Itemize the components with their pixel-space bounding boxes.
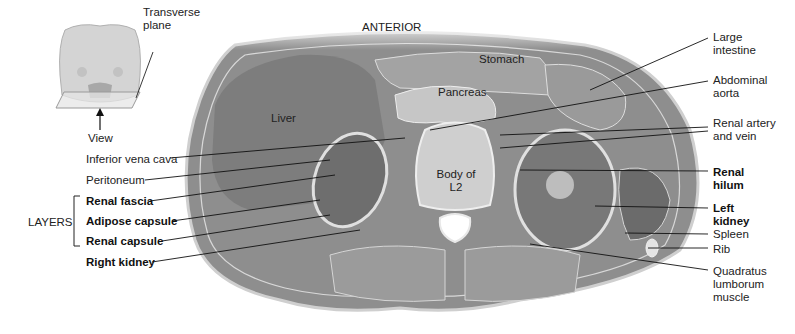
quadratus-lumborum-label: Quadratus lumborum muscle — [713, 265, 773, 304]
peritoneum-label: Peritoneum — [86, 174, 145, 187]
inset-torso-illustration — [56, 25, 153, 130]
abdominal-aorta-label: Abdominal aorta — [713, 74, 783, 100]
renal-capsule-label: Renal capsule — [86, 235, 163, 248]
inferior-vena-cava-label: Inferior vena cava — [86, 153, 177, 166]
right-kidney-label: Right kidney — [86, 256, 155, 269]
renal-artery-vein-label: Renal artery and vein — [713, 117, 785, 143]
large-intestine-label: Large intestine — [713, 31, 783, 57]
transverse-plane-label: Transverse plane — [143, 6, 213, 32]
renal-hilum-label: Renal hilum — [713, 166, 763, 192]
body-cross-section — [180, 20, 700, 310]
renal-fascia-label: Renal fascia — [86, 195, 153, 208]
pancreas-label: Pancreas — [438, 86, 487, 99]
layers-label: LAYERS — [28, 216, 73, 229]
anterior-label: ANTERIOR — [362, 21, 421, 34]
view-label: View — [88, 132, 113, 145]
vertebra-label: Body of L2 — [436, 168, 476, 194]
layers-bracket — [74, 196, 80, 246]
adipose-capsule-label: Adipose capsule — [86, 215, 177, 228]
abdomen-cross-section-figure — [0, 0, 795, 334]
liver-label: Liver — [271, 112, 296, 125]
rib-label: Rib — [713, 243, 730, 256]
stomach-label: Stomach — [479, 53, 524, 66]
spleen-label: Spleen — [713, 228, 749, 241]
left-kidney-label: Left kidney — [713, 202, 763, 228]
